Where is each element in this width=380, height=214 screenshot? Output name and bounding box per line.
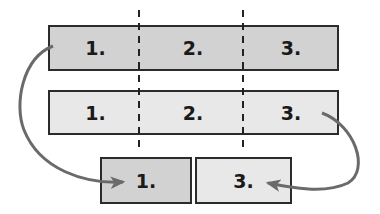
- arrow-segment-3-icon: [268, 113, 358, 189]
- diagram-overlay: [0, 0, 380, 214]
- arrow-segment-1-icon: [20, 46, 123, 182]
